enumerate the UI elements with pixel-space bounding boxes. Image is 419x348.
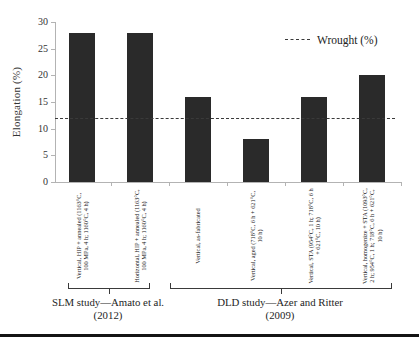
y-tick-label: 30 (22, 17, 48, 27)
group-label-study: SLM study—Amato et al. (52, 296, 164, 309)
x-tick (111, 182, 112, 186)
bar (359, 75, 385, 182)
group-bracket (170, 283, 392, 289)
bar-label: Vertical, as-fabricated (194, 188, 201, 284)
bar (69, 33, 95, 182)
y-tick (51, 22, 55, 23)
y-axis-title: Elongation (%) (10, 67, 22, 137)
y-tick-label: 5 (22, 150, 48, 160)
y-tick (51, 182, 55, 183)
y-tick (51, 129, 55, 130)
bar (301, 97, 327, 182)
bar-label: Vertical, HIP + annealed (1163°C, 100 MP… (75, 188, 90, 284)
bar-label: Vertical, homogenize + STA (1093°C, 2 h;… (361, 188, 383, 284)
y-axis-line (55, 22, 56, 182)
bracket-stub (281, 288, 282, 294)
wrought-reference-line (55, 118, 395, 119)
group-label-year: (2009) (217, 309, 343, 322)
group-bracket (68, 283, 150, 289)
bar-label: Vertical, STA (954°C, 1 h; 718°C, 6 h + … (307, 188, 322, 284)
y-tick-label: 25 (22, 44, 48, 54)
y-tick (51, 155, 55, 156)
x-axis-line (55, 182, 402, 183)
bar-label: Vertical, aged (718°C, 6 h + 621°C, 10 h… (249, 188, 264, 284)
y-tick (51, 102, 55, 103)
x-tick (227, 182, 228, 186)
legend-label: Wrought (%) (317, 34, 378, 46)
figure-page: Elongation (%) Wrought (%) 051015202530V… (0, 0, 419, 348)
group-label: DLD study—Azer and Ritter(2009) (217, 296, 343, 322)
bracket-stub (109, 288, 110, 294)
elongation-bar-chart: Elongation (%) Wrought (%) 051015202530V… (0, 0, 419, 348)
x-tick (285, 182, 286, 186)
group-label: SLM study—Amato et al.(2012) (52, 296, 164, 322)
bar-label: Horizontal, HIP + annealed (1163°C, 100 … (133, 188, 148, 284)
y-tick-label: 0 (22, 177, 48, 187)
y-tick-label: 20 (22, 70, 48, 80)
dashed-line-icon (285, 39, 310, 40)
x-tick (343, 182, 344, 186)
group-label-study: DLD study—Azer and Ritter (217, 296, 343, 309)
y-tick-label: 15 (22, 97, 48, 107)
page-divider-rule (0, 334, 419, 337)
bar (127, 33, 153, 182)
bar (243, 139, 269, 182)
x-tick (401, 182, 402, 186)
y-tick-label: 10 (22, 124, 48, 134)
legend: Wrought (%) (285, 33, 378, 46)
bar (185, 97, 211, 182)
y-tick (51, 49, 55, 50)
y-tick (51, 75, 55, 76)
group-label-year: (2012) (52, 309, 164, 322)
x-tick (169, 182, 170, 186)
